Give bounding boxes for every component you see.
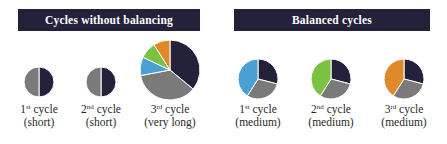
pie-chart-3rd-cycle-unbalanced — [140, 40, 200, 100]
pie-slice-gray — [24, 67, 39, 97]
pie-chart-1st-cycle-unbalanced — [24, 67, 54, 97]
pie-slice-navy — [39, 67, 54, 97]
pie-chart-2nd-cycle-balanced — [311, 59, 351, 99]
pie-chart-3rd-cycle-balanced — [384, 59, 424, 99]
pie-slice-navy — [101, 67, 116, 97]
pie-slice-gray — [86, 67, 101, 97]
cycle-label: 3rd cycle (very long) — [130, 103, 210, 129]
cycle-label: 2nd cycle (short) — [61, 103, 141, 129]
pie-chart-2nd-cycle-unbalanced — [86, 67, 116, 97]
cycle-label: 1st cycle (medium) — [218, 103, 298, 129]
cycle-label: 3rd cycle (medium) — [364, 103, 444, 129]
cycle-label: 2nd cycle (medium) — [291, 103, 371, 129]
pie-chart-1st-cycle-balanced — [238, 59, 278, 99]
